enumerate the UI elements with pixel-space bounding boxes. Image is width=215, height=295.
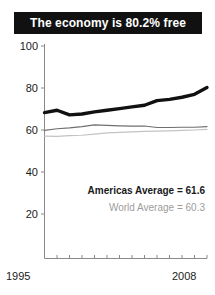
line-chart-plot: [0, 0, 215, 295]
y-tick-marks: [41, 46, 45, 214]
axis-group: [41, 44, 207, 259]
series-group: [45, 88, 208, 137]
annotation-americas-average: Americas Average = 61.6: [88, 186, 205, 196]
chart-page: The economy is 80.2% free 100 80 60 40 2…: [0, 0, 215, 295]
series-line-americas-average: [45, 125, 208, 130]
chart-svg: [0, 0, 215, 295]
series-line-world-average: [45, 129, 208, 136]
x-tick-marks: [45, 255, 208, 259]
annotation-world-average: World Average = 60.3: [109, 203, 205, 213]
series-line-country-score: [45, 88, 208, 115]
